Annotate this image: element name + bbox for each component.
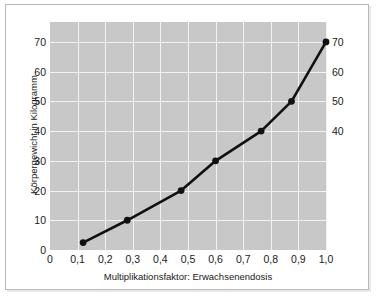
x-axis-ticks: 00,10,20,30,40,50,60,70,80,91,0 (0, 254, 377, 268)
data-point-marker (258, 128, 265, 135)
x-tick-label: 1,0 (311, 254, 341, 265)
data-point-marker (323, 39, 330, 46)
y-tick-label-right: 40 (332, 126, 358, 136)
x-tick-label: 0,7 (228, 254, 258, 265)
series-line-chart (50, 22, 326, 250)
series-polyline (83, 42, 326, 243)
y-axis-title: Körpergewicht in Kilogramm (28, 40, 39, 230)
x-tick-label: 0,9 (283, 254, 313, 265)
chart-page: 010203040506070 40506070 00,10,20,30,40,… (0, 0, 377, 298)
x-tick-label: 0,5 (173, 254, 203, 265)
x-tick-label: 0,8 (256, 254, 286, 265)
y-tick-label-right: 60 (332, 67, 358, 77)
y-tick-label-right: 50 (332, 96, 358, 106)
x-tick-label: 0,2 (90, 254, 120, 265)
x-tick-label: 0,1 (63, 254, 93, 265)
data-point-marker (124, 217, 131, 224)
series-markers (80, 39, 330, 246)
data-point-marker (80, 239, 87, 246)
plot-area (50, 22, 326, 250)
gridline-vertical (326, 22, 327, 250)
x-axis-title: Multiplikationsfaktor: Erwachsenendosis (50, 271, 326, 282)
data-point-marker (178, 187, 185, 194)
x-tick-label: 0,6 (201, 254, 231, 265)
x-tick-label: 0,4 (145, 254, 175, 265)
x-tick-label: 0,3 (118, 254, 148, 265)
y-tick-label-right: 70 (332, 37, 358, 47)
data-point-marker (212, 157, 219, 164)
data-point-marker (288, 98, 295, 105)
x-tick-label: 0 (35, 254, 65, 265)
